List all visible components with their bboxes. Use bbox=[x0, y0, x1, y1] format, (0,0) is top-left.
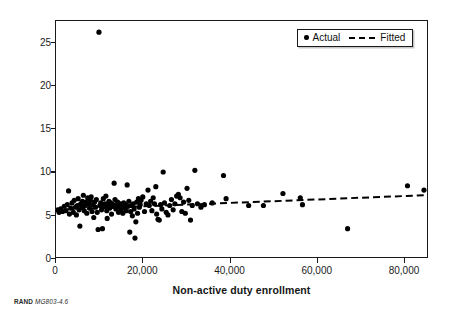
x-tick-label: 60,000 bbox=[301, 265, 332, 276]
y-tick-label: 10 bbox=[25, 166, 51, 177]
scatter-point bbox=[112, 181, 117, 186]
scatter-point bbox=[126, 199, 131, 204]
x-tick-label: 80,000 bbox=[389, 265, 420, 276]
scatter-point bbox=[132, 236, 137, 241]
x-tick-label: 20,000 bbox=[127, 265, 158, 276]
scatter-point bbox=[192, 168, 197, 173]
scatter-point bbox=[154, 212, 159, 217]
legend-item-fitted: Fitted bbox=[349, 32, 405, 43]
scatter-point bbox=[96, 227, 101, 232]
scatter-point bbox=[68, 206, 73, 211]
dashed-line-marker-icon bbox=[349, 37, 375, 39]
scatter-point bbox=[142, 209, 147, 214]
scatter-point bbox=[138, 202, 143, 207]
scatter-point bbox=[405, 183, 410, 188]
dot-marker-icon bbox=[304, 35, 309, 40]
scatter-point bbox=[261, 203, 266, 208]
scatter-point bbox=[165, 212, 170, 217]
scatter-point bbox=[84, 211, 89, 216]
x-tick-mark bbox=[55, 258, 56, 263]
scatter-point bbox=[161, 169, 166, 174]
scatter-point bbox=[74, 212, 79, 217]
scatter-point bbox=[246, 203, 251, 208]
scatter-point bbox=[130, 213, 135, 218]
scatter-point bbox=[132, 206, 137, 211]
scatter-point bbox=[202, 202, 207, 207]
source-credit-prefix: RAND bbox=[14, 298, 35, 305]
source-credit-id: MG803-4.6 bbox=[35, 298, 68, 305]
y-axis-ticks: 0510152025 bbox=[21, 20, 51, 258]
legend-label-actual: Actual bbox=[313, 32, 341, 43]
plot-area bbox=[55, 20, 428, 258]
y-axis-title: Mean inpatient utilization bbox=[0, 0, 8, 52]
x-tick-label: 0 bbox=[52, 265, 58, 276]
legend-item-actual: Actual bbox=[304, 32, 340, 43]
y-tick-label: 0 bbox=[25, 253, 51, 264]
scatter-point bbox=[157, 218, 162, 223]
scatter-point bbox=[96, 30, 101, 35]
x-tick-mark bbox=[404, 258, 405, 263]
scatter-point bbox=[181, 199, 186, 204]
scatter-point bbox=[221, 173, 226, 178]
scatter-point bbox=[66, 188, 71, 193]
scatter-point bbox=[100, 226, 105, 231]
scatter-point bbox=[103, 193, 108, 198]
scatter-point bbox=[184, 186, 189, 191]
y-tick-label: 15 bbox=[25, 123, 51, 134]
scatter-point bbox=[91, 215, 96, 220]
source-credit: RAND MG803-4.6 bbox=[14, 298, 68, 305]
scatter-point bbox=[178, 195, 183, 200]
scatter-point bbox=[300, 202, 305, 207]
scatter-point bbox=[188, 218, 193, 223]
scatter-point bbox=[76, 196, 81, 201]
chart-legend: Actual Fitted bbox=[297, 29, 413, 47]
scatter-point bbox=[125, 182, 130, 187]
legend-label-fitted: Fitted bbox=[380, 32, 405, 43]
y-tick-label: 5 bbox=[25, 209, 51, 220]
scatter-point bbox=[224, 196, 229, 201]
scatter-point bbox=[183, 211, 188, 216]
scatter-point bbox=[94, 197, 99, 202]
scatter-point bbox=[421, 187, 426, 192]
scatter-point bbox=[280, 191, 285, 196]
scatter-plot-canvas bbox=[56, 21, 427, 257]
scatter-point bbox=[151, 195, 156, 200]
scatter-point bbox=[77, 224, 82, 229]
scatter-point bbox=[81, 193, 86, 198]
x-tick-mark bbox=[142, 258, 143, 263]
scatter-point bbox=[145, 187, 150, 192]
scatter-point bbox=[140, 194, 145, 199]
x-tick-mark bbox=[317, 258, 318, 263]
scatter-point bbox=[169, 197, 174, 202]
scatter-point bbox=[153, 184, 158, 189]
scatter-point bbox=[298, 195, 303, 200]
scatter-point bbox=[89, 194, 94, 199]
scatter-point bbox=[345, 226, 350, 231]
actual-data-points bbox=[56, 30, 427, 241]
x-tick-label: 40,000 bbox=[214, 265, 245, 276]
scatter-point bbox=[172, 201, 177, 206]
scatter-point bbox=[149, 208, 154, 213]
scatter-point bbox=[105, 216, 110, 221]
y-tick-label: 20 bbox=[25, 79, 51, 90]
scatter-point bbox=[89, 209, 94, 214]
scatter-point bbox=[171, 207, 176, 212]
y-tick-label: 25 bbox=[25, 36, 51, 47]
x-axis-title: Non-active duty enrollment bbox=[55, 284, 428, 296]
figure-container: Mean inpatient utilization 0510152025 02… bbox=[0, 0, 450, 320]
scatter-point bbox=[133, 219, 138, 224]
scatter-point bbox=[135, 211, 140, 216]
scatter-point bbox=[190, 203, 195, 208]
scatter-point bbox=[162, 200, 167, 205]
scatter-point bbox=[127, 230, 132, 235]
x-tick-mark bbox=[230, 258, 231, 263]
scatter-point bbox=[210, 200, 215, 205]
x-axis-ticks: 020,00040,00060,00080,000 bbox=[55, 258, 428, 284]
scatter-point bbox=[167, 203, 172, 208]
scatter-point bbox=[95, 210, 100, 215]
scatter-point bbox=[109, 212, 114, 217]
scatter-point bbox=[159, 206, 164, 211]
scatter-point bbox=[186, 198, 191, 203]
scatter-point bbox=[152, 201, 157, 206]
